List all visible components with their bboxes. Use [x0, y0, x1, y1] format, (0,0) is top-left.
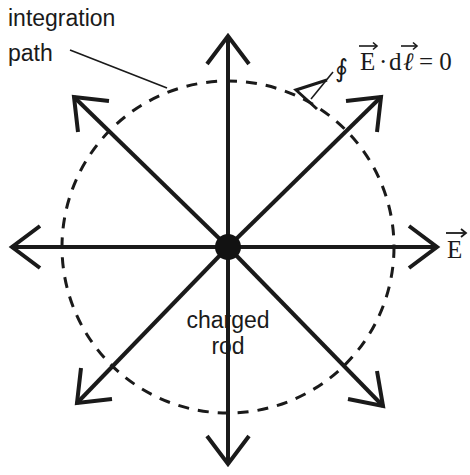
integration-path-leader-line: [70, 50, 167, 88]
e-field-vector-label: E: [446, 229, 466, 263]
integration-path-label-line1: integration: [8, 5, 115, 31]
equation-ell-letter: ℓ: [403, 48, 414, 75]
integration-path-label-line2: path: [8, 40, 53, 66]
equation-equals-zero: = 0: [419, 48, 452, 75]
charged-rod-label-line2: rod: [211, 333, 244, 359]
field-line-upper-left: [74, 97, 228, 247]
equation-E-letter: E: [360, 48, 375, 75]
equation-differential-d: d: [389, 48, 402, 75]
e-field-vector-letter: E: [447, 236, 462, 263]
diagram-canvas: integration path charged rod E ∮ E · d ℓ: [0, 0, 470, 475]
equation-dot-operator: ·: [379, 48, 387, 75]
contour-integral-symbol: ∮: [335, 55, 348, 83]
charged-rod-cross-section: [215, 234, 241, 260]
contour-integral-equation: ∮ E · d ℓ = 0: [335, 43, 452, 84]
physics-diagram-figure: integration path charged rod E ∮ E · d ℓ: [0, 0, 470, 475]
field-line-upper-right: [228, 97, 381, 247]
charged-rod-label-line1: charged: [186, 307, 269, 333]
